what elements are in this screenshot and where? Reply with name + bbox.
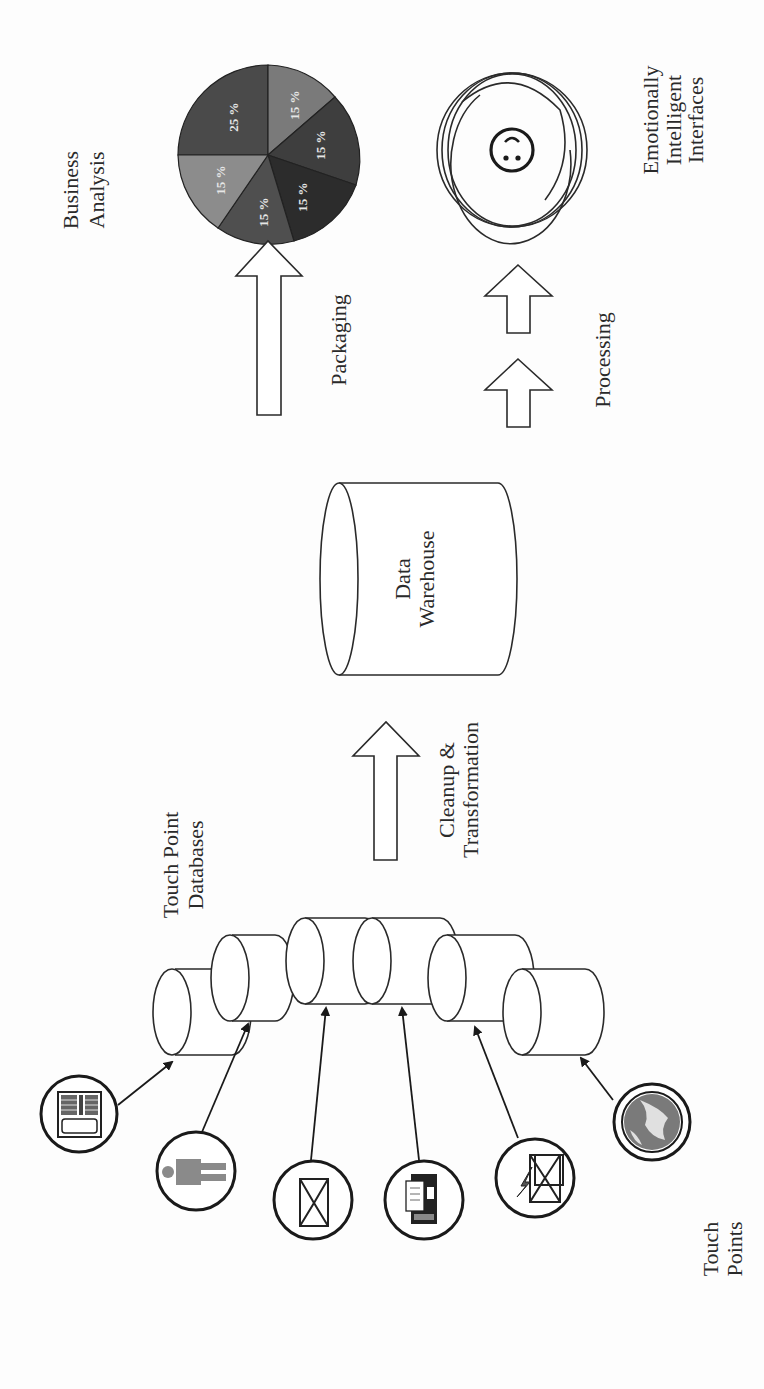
svg-text:Interfaces: Interfaces bbox=[683, 77, 708, 164]
svg-text:15 %: 15 % bbox=[295, 182, 310, 211]
svg-text:15 %: 15 % bbox=[213, 165, 228, 194]
calculator-icon bbox=[58, 1092, 101, 1137]
touch-point-database-cylinders bbox=[153, 918, 604, 1055]
svg-text:Emotionally: Emotionally bbox=[638, 66, 663, 175]
pie-chart: 25 % 15 % 15 % 15 % 15 % 15 % bbox=[178, 65, 360, 244]
touch-points-label-line2: Points bbox=[722, 1221, 747, 1276]
database-cylinder-6 bbox=[503, 969, 604, 1055]
svg-text:Business: Business bbox=[58, 151, 83, 229]
pie-slice-25 bbox=[178, 65, 268, 155]
touch-point-email bbox=[496, 1139, 574, 1217]
globe-icon bbox=[624, 1094, 680, 1150]
touch-point-keypad bbox=[41, 1076, 117, 1152]
packaging-arrow-icon bbox=[236, 241, 302, 415]
processing-arrow-lower-icon bbox=[485, 359, 552, 427]
database-cylinder-2 bbox=[211, 935, 294, 1021]
crm-data-flow-diagram: Business Analysis 25 % 15 % 15 % 15 % 15… bbox=[0, 0, 764, 1389]
svg-text:15 %: 15 % bbox=[287, 90, 302, 119]
data-warehouse-cylinder: Data Warehouse bbox=[320, 483, 517, 675]
svg-text:25 %: 25 % bbox=[226, 102, 241, 131]
touch-point-databases-label-line1: Touch Point bbox=[158, 812, 183, 919]
svg-text:15 %: 15 % bbox=[256, 197, 271, 226]
cleanup-arrow-icon bbox=[353, 722, 419, 860]
svg-text:Analysis: Analysis bbox=[84, 152, 109, 229]
processing-arrow-upper-icon bbox=[485, 265, 552, 333]
business-analysis-label: Business Analysis bbox=[58, 151, 109, 229]
touch-point-person bbox=[157, 1132, 235, 1210]
svg-text:Data: Data bbox=[390, 558, 415, 600]
touch-point-databases-label-line2: Databases bbox=[183, 820, 208, 909]
processing-label: Processing bbox=[590, 312, 615, 407]
smiley-interface-icon bbox=[437, 73, 587, 244]
emotionally-intelligent-interfaces-label: Emotionally Intelligent Interfaces bbox=[638, 66, 708, 175]
packaging-label: Packaging bbox=[326, 294, 351, 386]
touch-point-fax bbox=[385, 1161, 463, 1239]
cleanup-label-line2: Transformation bbox=[458, 722, 483, 858]
cleanup-label-line1: Cleanup & bbox=[434, 742, 459, 838]
svg-text:15 %: 15 % bbox=[313, 130, 328, 159]
touch-points-label-line1: Touch bbox=[698, 1222, 723, 1277]
touch-point-web bbox=[614, 1084, 690, 1160]
svg-text:Warehouse: Warehouse bbox=[414, 530, 439, 627]
touch-point-mail bbox=[274, 1161, 352, 1239]
